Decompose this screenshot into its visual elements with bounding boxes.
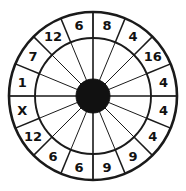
sector-label: 7 bbox=[29, 49, 38, 64]
sector-label: 6 bbox=[48, 149, 57, 164]
sector-label: 16 bbox=[144, 49, 162, 64]
sector-label: 9 bbox=[103, 160, 112, 175]
wheel-figure: 8416444996612X17126 bbox=[0, 0, 186, 191]
sector-label: 4 bbox=[159, 103, 168, 118]
sector-label: 4 bbox=[128, 29, 137, 44]
sector-label: 9 bbox=[128, 149, 137, 164]
sector-label: 6 bbox=[74, 18, 83, 33]
sector-label: 12 bbox=[24, 129, 42, 144]
sector-label: 1 bbox=[18, 75, 27, 90]
sector-label: 8 bbox=[103, 18, 112, 33]
sector-label: 6 bbox=[74, 160, 83, 175]
sector-label: X bbox=[17, 103, 27, 118]
sector-label: 12 bbox=[44, 29, 62, 44]
wheel-diagram-svg: 8416444996612X17126 bbox=[0, 0, 186, 191]
sector-label: 4 bbox=[148, 129, 157, 144]
center-hub bbox=[76, 79, 110, 113]
sector-label: 4 bbox=[159, 75, 168, 90]
